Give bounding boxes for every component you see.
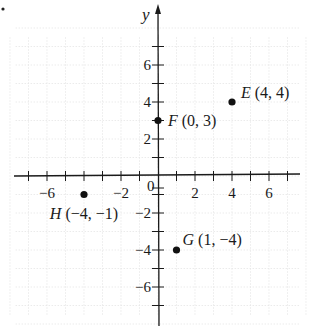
x-tick-label: 4 [228,185,236,201]
point-label-e: E (4, 4) [240,84,289,102]
y-tick-label: −2 [135,205,151,221]
point-label-h: H (−4, −1) [49,205,118,223]
axes [14,4,300,326]
x-tick-label: 2 [191,185,199,201]
y-axis-label: y [140,5,150,24]
corner-mark [1,7,4,10]
x-tick-label: −6 [39,185,55,201]
coordinate-plane: −6−2246642−2−4−6 E (4, 4)F (0, 3)G (1, −… [0,0,313,332]
y-tick-label: 6 [144,57,152,73]
data-points: E (4, 4)F (0, 3)G (1, −4)H (−4, −1) [49,84,290,254]
point-h [80,191,87,198]
x-tick-label: 6 [265,185,273,201]
point-f [154,117,161,124]
point-e [228,98,235,105]
y-axis-line [158,12,159,326]
point-g [173,246,180,253]
x-tick-label: −2 [113,185,129,201]
origin-label: 0 [147,178,155,194]
y-tick-label: −6 [135,279,151,295]
y-axis-arrow-icon [155,4,161,14]
y-tick-label: 4 [144,94,152,110]
y-tick-label: −4 [135,242,151,258]
point-label-f: F (0, 3) [167,112,216,130]
y-tick-label: 2 [144,131,152,147]
point-label-g: G (1, −4) [183,231,242,249]
